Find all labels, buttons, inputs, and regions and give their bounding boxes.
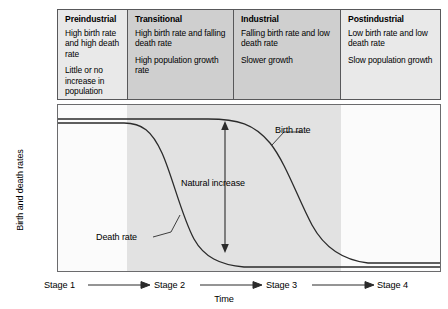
death-rate-label: Death rate <box>96 232 137 243</box>
stage-description-line: Low birth rate and low death rate <box>348 28 434 49</box>
stage-column-transitional: Transitional High birth rate and falling… <box>128 10 234 99</box>
stage-description-table: Preindustrial High birth rate and high d… <box>57 9 441 100</box>
stage-description-line: High birth rate and falling death rate <box>135 28 227 49</box>
y-axis-label: Birth and death rates <box>15 130 25 250</box>
chart-curves <box>58 105 441 272</box>
stage-axis-label-2: Stage 2 <box>154 279 185 291</box>
stage-axis-label-1: Stage 1 <box>44 279 75 291</box>
stage-column-industrial: Industrial Falling birth rate and low de… <box>234 10 341 99</box>
stage-column-preindustrial: Preindustrial High birth rate and high d… <box>58 10 128 99</box>
x-axis-label: Time <box>0 294 448 304</box>
stage-description-line: Falling birth rate and low death rate <box>241 28 334 49</box>
stage-column-postindustrial: Postindustrial Low birth rate and low de… <box>341 10 440 99</box>
stage-title: Transitional <box>135 14 227 25</box>
stage-axis-label-4: Stage 4 <box>377 279 408 291</box>
stage-description-line: High population growth rate <box>135 55 227 76</box>
stage-title: Postindustrial <box>348 14 434 25</box>
stage-title: Preindustrial <box>65 14 121 25</box>
stage-axis: Stage 1 Stage 2 Stage 3 Stage 4 <box>44 277 444 293</box>
stage-description-line: High birth rate and high death rate <box>65 28 121 59</box>
stage-axis-label-3: Stage 3 <box>266 279 297 291</box>
death-rate-leader-line <box>153 215 180 237</box>
stage-description-line: Slow population growth <box>348 55 434 65</box>
stage-title: Industrial <box>241 14 334 25</box>
stage-description-line: Slower growth <box>241 55 334 65</box>
death-rate-curve <box>58 123 441 267</box>
natural-increase-label: Natural increase <box>181 178 245 189</box>
stage-description-line: Little or no increase in population <box>65 65 121 96</box>
birth-rate-label: Birth rate <box>275 125 311 136</box>
figure-root: Preindustrial High birth rate and high d… <box>0 0 448 309</box>
chart-plot-area <box>57 104 441 272</box>
